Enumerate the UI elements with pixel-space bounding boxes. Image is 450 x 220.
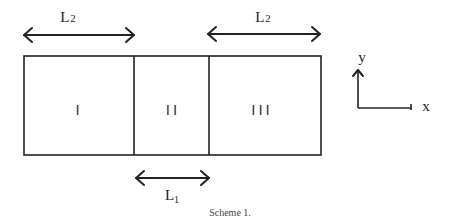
- region-label-1: I: [75, 101, 82, 118]
- region-label-3: III: [251, 101, 273, 118]
- y-axis-label: y: [358, 49, 366, 65]
- middle-dimension-arrow: [136, 171, 209, 185]
- right-dimension-label: L2: [255, 9, 271, 25]
- region-label-2: II: [166, 101, 180, 118]
- x-axis-label: x: [422, 98, 430, 114]
- right-dimension-arrow: [208, 27, 320, 41]
- left-dimension-arrow: [24, 28, 134, 42]
- scheme-diagram: I II III L2 L2 L1 y x Scheme 1.: [0, 0, 450, 220]
- scheme-caption: Scheme 1.: [209, 207, 251, 218]
- coordinate-axes: [353, 70, 411, 110]
- middle-dimension-label: L1: [165, 187, 179, 205]
- left-dimension-label: L2: [60, 9, 76, 25]
